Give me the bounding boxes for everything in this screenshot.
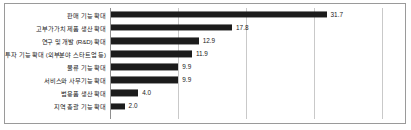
table-row: 연구 및 개발 (R&D) 확대 12.9 [0,34,411,47]
table-row: 판매 기능 확대 31.7 [0,8,411,21]
bar-container: 12.9 [111,34,215,47]
category-label: 고부가가치 제품 생산 확대 [36,24,106,31]
table-row: 지역 총괄 기능 확대 2.0 [0,100,411,113]
bar [111,64,178,71]
table-row: 투자 기능 확대 (외부분야 스타트업 등) 11.9 [0,47,411,60]
category-label: 물류 기능 확대 [67,63,106,70]
bar-rows: 판매 기능 확대 31.7 고부가가치 제품 생산 확대 17.8 연구 및 개… [0,8,411,119]
bar-container: 9.9 [111,60,191,73]
bar-container: 11.9 [111,47,208,60]
bar [111,77,178,84]
value-label: 2.0 [129,103,138,110]
bar-container: 31.7 [111,8,343,21]
table-row: 범용품 생산 확대 4.0 [0,87,411,100]
value-label: 12.9 [203,37,215,44]
bar-chart-figure: 판매 기능 확대 31.7 고부가가치 제품 생산 확대 17.8 연구 및 개… [0,0,411,130]
category-label: 범용품 생산 확대 [61,90,106,97]
table-row: 고부가가치 제품 생산 확대 17.8 [0,21,411,34]
category-label: 지역 총괄 기능 확대 [54,103,106,110]
bar-container: 4.0 [111,87,151,100]
table-row: 서비스와 사무기능 확대 9.9 [0,73,411,86]
bar [111,37,199,44]
bar-container: 17.8 [111,21,248,34]
category-label: 서비스와 사무기능 확대 [44,77,106,84]
table-row: 물류 기능 확대 9.9 [0,60,411,73]
bar [111,90,138,97]
bar [111,11,327,18]
value-label: 11.9 [196,50,208,57]
category-label: 투자 기능 확대 (외부분야 스타트업 등) [5,50,106,57]
value-label: 4.0 [142,90,151,97]
bar-container: 2.0 [111,100,137,113]
value-label: 9.9 [182,63,191,70]
category-label: 판매 기능 확대 [67,11,106,18]
bar [111,103,125,110]
bar [111,51,192,58]
value-label: 31.7 [331,11,343,18]
value-label: 17.8 [236,24,248,31]
bar-container: 9.9 [111,73,191,86]
bar [111,24,232,31]
value-label: 9.9 [182,77,191,84]
category-label: 연구 및 개발 (R&D) 확대 [42,37,106,44]
